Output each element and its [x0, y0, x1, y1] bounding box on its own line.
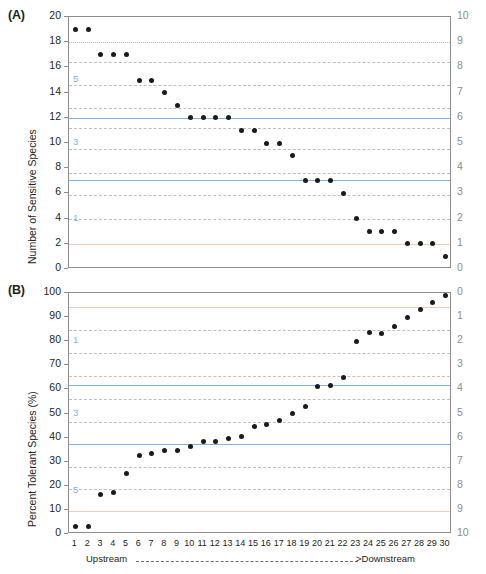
panel-b-reference-line: [69, 467, 450, 468]
panel-b-data-point: [392, 324, 397, 329]
panel-b-y-tick-left: 0: [35, 526, 61, 538]
panel-b-y-tick-left: 70: [35, 357, 61, 369]
panel-b-data-point: [290, 411, 295, 416]
panel-b-y-tick-right: 4: [457, 381, 477, 393]
panel-a-y-tick-right: 2: [457, 211, 477, 223]
x-axis-direction-rule: [136, 561, 358, 562]
panel-a-data-point: [175, 103, 180, 108]
panel-a-data-point: [264, 141, 269, 146]
panel-b-reference-line: [69, 353, 450, 354]
panel-a-y-tick-left: 6: [35, 185, 61, 197]
panel-b-y-tick-right: 6: [457, 430, 477, 442]
panel-a-data-point: [341, 191, 346, 196]
panel-a-y-tick-mark: [64, 41, 68, 42]
panel-a-reference-line: [69, 118, 450, 119]
panel-b-data-point: [149, 451, 154, 456]
panel-b-reference-line: [69, 422, 450, 423]
panel-b-reference-line: [69, 489, 450, 490]
panel-b-y-tick-mark: [64, 509, 68, 510]
panel-b-y-tick-mark: [64, 340, 68, 341]
panel-b-blue-annotation: 3: [73, 407, 78, 418]
panel-a-y-tick-right: 0: [457, 261, 477, 273]
panel-b-data-point: [124, 471, 129, 476]
panel-b-y-tick-left: 20: [35, 478, 61, 490]
panel-b-data-point: [418, 307, 423, 312]
panel-b-y-tick-left: 10: [35, 502, 61, 514]
panel-b-y-tick-right: 2: [457, 333, 477, 345]
panel-b-y-tick-left: 90: [35, 309, 61, 321]
panel-b-data-point: [303, 404, 308, 409]
panel-b-data-point: [354, 339, 359, 344]
panel-a-blue-annotation: 3: [73, 136, 78, 147]
panel-a-data-point: [418, 241, 423, 246]
panel-a-y-tick-mark: [64, 117, 68, 118]
panel-a-data-point: [213, 115, 218, 120]
panel-b-y-tick-mark: [64, 316, 68, 317]
panel-b-y-tick-right: 1: [457, 309, 477, 321]
panel-b-y-tick-right: 10: [457, 526, 477, 538]
panel-a-data-point: [430, 241, 435, 246]
panel-b-y-tick-left: 50: [35, 406, 61, 418]
panel-b-y-tick-mark: [64, 485, 68, 486]
panel-b-data-point: [201, 439, 206, 444]
panel-a-y-tick-mark: [64, 16, 68, 17]
panel-b-reference-line: [69, 385, 450, 386]
panel-a-reference-line: [69, 62, 450, 63]
panel-b-data-point: [379, 331, 384, 336]
figure-root: (A) Number of Sensitive Species 531 (B) …: [0, 0, 486, 574]
panel-a-blue-annotation: 1: [73, 212, 78, 223]
panel-a-reference-line: [69, 149, 450, 150]
panel-a-data-point: [98, 52, 103, 57]
panel-b-reference-line: [69, 511, 450, 512]
panel-b-data-point: [86, 524, 91, 529]
panel-b-y-tick-mark: [64, 364, 68, 365]
panel-a-data-point: [111, 52, 116, 57]
panel-a-y-tick-right: 6: [457, 110, 477, 122]
panel-a-data-point: [405, 241, 410, 246]
panel-b-blue-annotation: 5: [73, 484, 78, 495]
panel-b-data-point: [430, 300, 435, 305]
x-axis-downstream-label: >Downstream: [356, 553, 415, 564]
panel-a-data-point: [73, 27, 78, 32]
panel-a-y-tick-right: 8: [457, 59, 477, 71]
panel-a-y-tick-mark: [64, 142, 68, 143]
panel-a-reference-line: [69, 173, 450, 174]
panel-a-reference-line: [69, 219, 450, 220]
panel-a-y-tick-right: 1: [457, 236, 477, 248]
panel-b-data-point: [328, 383, 333, 388]
panel-b-y-tick-left: 100: [35, 285, 61, 297]
panel-b-y-tick-right: 0: [457, 285, 477, 297]
panel-b-data-point: [137, 453, 142, 458]
panel-b-data-point: [367, 330, 372, 335]
panel-b-data-point: [175, 448, 180, 453]
panel-a-reference-line: [69, 195, 450, 196]
panel-b-y-tick-right: 8: [457, 478, 477, 490]
panel-a-data-point: [392, 229, 397, 234]
panel-a-plot-area: 531: [68, 16, 451, 268]
panel-a-reference-line: [69, 108, 450, 109]
panel-b-reference-line: [69, 399, 450, 400]
panel-a-y-tick-left: 0: [35, 261, 61, 273]
panel-b-y-tick-mark: [64, 388, 68, 389]
panel-b-y-tick-mark: [64, 292, 68, 293]
panel-a-reference-line: [69, 128, 450, 129]
panel-b-reference-line: [69, 330, 450, 331]
panel-b-data-point: [405, 315, 410, 320]
panel-b-data-point: [443, 293, 448, 298]
panel-a-data-point: [226, 115, 231, 120]
panel-a-y-tick-left: 4: [35, 211, 61, 223]
panel-b-y-tick-mark: [64, 437, 68, 438]
panel-b-y-tick-mark: [64, 413, 68, 414]
panel-b-data-point: [341, 375, 346, 380]
panel-b-y-tick-left: 30: [35, 454, 61, 466]
panel-a-y-tick-mark: [64, 243, 68, 244]
panel-a-blue-annotation: 5: [73, 73, 78, 84]
panel-b-data-point: [315, 384, 320, 389]
panel-a-y-tick-right: 4: [457, 160, 477, 172]
panel-a-y-tick-mark: [64, 218, 68, 219]
panel-a-reference-line: [69, 180, 450, 181]
panel-a-y-tick-right: 7: [457, 85, 477, 97]
panel-b-data-point: [188, 444, 193, 449]
panel-b-y-tick-right: 7: [457, 454, 477, 466]
panel-b-reference-line: [69, 444, 450, 445]
